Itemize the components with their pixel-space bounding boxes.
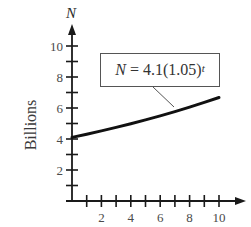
- x-tick-label: 2: [98, 210, 105, 225]
- x-tick-label: 8: [186, 210, 193, 225]
- y-tick-label: 8: [57, 70, 64, 85]
- x-axis-arrow-icon: [235, 197, 246, 205]
- x-tick-label: 4: [128, 210, 135, 225]
- equation-leader-line: [153, 87, 174, 107]
- x-tick-label: 10: [213, 210, 226, 225]
- growth-curve: [72, 98, 219, 138]
- x-tick-label: 6: [157, 210, 164, 225]
- y-tick-label: 6: [57, 101, 64, 116]
- equation-label: N = 4.1(1.05)t: [100, 53, 220, 87]
- y-variable-label: N: [65, 5, 77, 21]
- y-tick-label: 4: [57, 132, 64, 147]
- equation-exponent: t: [202, 62, 205, 74]
- exponential-growth-chart: 246810 246810 N Billions: [0, 0, 251, 227]
- equation-equals: =: [126, 61, 143, 79]
- equation-lhs: N: [115, 61, 126, 79]
- x-ticks: 246810: [87, 195, 226, 225]
- equation-base: 4.1(1.05): [143, 61, 202, 79]
- y-ticks: 246810: [50, 39, 78, 186]
- y-tick-label: 2: [57, 163, 64, 178]
- y-axis-arrow-icon: [68, 24, 76, 35]
- y-axis-title: Billions: [22, 100, 39, 151]
- y-tick-label: 10: [50, 39, 63, 54]
